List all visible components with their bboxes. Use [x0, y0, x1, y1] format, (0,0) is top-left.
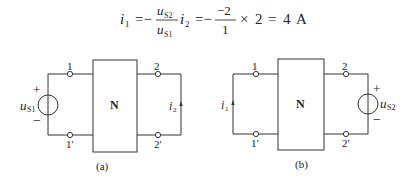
terminal-a-2p-icon: [155, 132, 160, 137]
eq-unit: A: [296, 11, 307, 27]
terminal-b-1-icon: [253, 71, 258, 76]
circuit-b-labels: i 1 1 1′ 2 2′ N + − u S2 (b): [221, 60, 395, 171]
frac1-den-var: u: [157, 22, 164, 37]
terminal-b-1p-icon: [253, 131, 258, 136]
network-a-label: N: [110, 98, 119, 112]
wire-a-left-bottom: [48, 115, 67, 135]
port-b-2p-label: 2′: [342, 137, 350, 149]
eq-equals-3: =: [268, 11, 276, 27]
frac1-den-sub: S1: [164, 30, 172, 39]
current-a-var: i: [169, 99, 172, 113]
source-b-sub: S2: [387, 103, 395, 112]
source-a-sub: S1: [27, 105, 35, 114]
terminal-b-2-icon: [343, 71, 348, 76]
source-a-plus: +: [33, 82, 40, 97]
port-b-1p-label: 1′: [251, 137, 259, 149]
caption-b: (b): [295, 158, 308, 171]
wire-b-right-bottom: [349, 114, 368, 134]
port-a-2-label: 2: [154, 60, 160, 72]
wire-a-left-top: [48, 74, 67, 95]
frac1-num-var: u: [157, 3, 164, 18]
terminal-a-1p-icon: [67, 132, 72, 137]
frac2-num: −2: [217, 3, 231, 18]
terminal-a-1-icon: [67, 71, 72, 76]
current-a-arrow-icon: [179, 101, 182, 106]
wire-b-right-top: [349, 74, 368, 94]
port-a-1p-label: 1′: [66, 138, 74, 150]
eq-lhs-var: i: [120, 11, 124, 27]
current-b-arrow-icon: [231, 100, 234, 105]
eq-mult-var: i: [180, 11, 184, 27]
frac2-den: 1: [222, 22, 229, 37]
eq-times: ×: [240, 11, 248, 27]
equation: i 1 =− u S2 u S1 i 2 =− −2 1 × 2 = 4 A: [120, 3, 307, 39]
current-b-sub: 1: [225, 105, 229, 113]
eq-factor: 2: [255, 11, 263, 27]
source-a-minus: −: [33, 113, 41, 128]
current-a-sub: 2: [173, 106, 177, 114]
eq-equals-1: =−: [135, 11, 152, 27]
port-a-1-label: 1: [67, 60, 73, 72]
eq-lhs-sub: 1: [125, 19, 130, 29]
eq-result: 4: [283, 11, 291, 27]
source-b-plus: +: [373, 81, 380, 96]
source-a-var: u: [20, 98, 27, 113]
frac1-num-sub: S2: [164, 11, 172, 20]
terminal-b-2p-icon: [343, 131, 348, 136]
eq-equals-2: =−: [195, 11, 212, 27]
caption-a: (a): [96, 160, 109, 173]
source-b-minus: −: [373, 112, 381, 127]
terminal-a-2-icon: [155, 71, 160, 76]
port-b-1-label: 1: [252, 60, 258, 72]
figure: i 1 =− u S2 u S1 i 2 =− −2 1 × 2 = 4 A: [0, 0, 410, 182]
eq-mult-sub: 2: [185, 19, 190, 29]
current-b-var: i: [221, 98, 224, 112]
circuit-a-labels: + − u S1 1 1′ 2 2′ N i 2 (a): [20, 60, 177, 173]
wire-b-short: [233, 74, 253, 134]
port-a-2p-label: 2′: [154, 138, 162, 150]
source-b-var: u: [380, 96, 387, 111]
port-b-2-label: 2: [342, 60, 348, 72]
network-b-label: N: [296, 97, 305, 111]
